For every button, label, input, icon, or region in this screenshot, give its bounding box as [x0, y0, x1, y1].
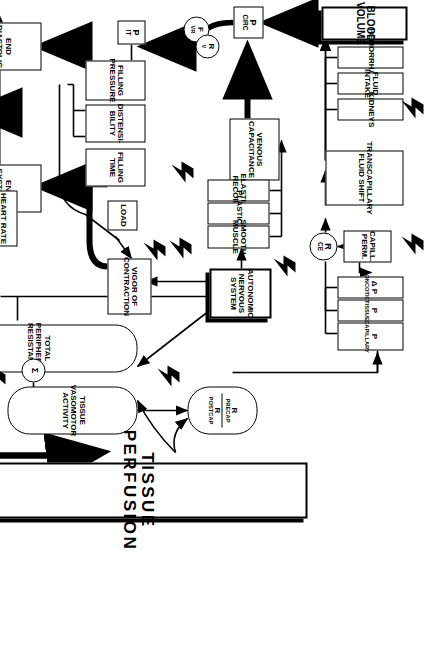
- lightning-bolt-capillary-permeability: [401, 233, 423, 254]
- lightning-bolt-vasomotor: [0, 367, 5, 388]
- lightning-bolt-vigor: [143, 239, 165, 260]
- lightning-bolt-kidneys: [401, 97, 423, 118]
- diagram-canvas: BLOOD VOLUME HEMORRHAGE FLUID INTAKE KID…: [0, 0, 437, 666]
- lightning-bolt-autonomic: [273, 255, 295, 276]
- lightning-bolt-precap-ratio: [157, 365, 179, 386]
- lightning-bolt-layer: [0, 0, 437, 666]
- lightning-bolt-elastic-recoil: [171, 161, 193, 182]
- diagram-rotated-layer: BLOOD VOLUME HEMORRHAGE FLUID INTAKE KID…: [0, 0, 437, 666]
- lightning-bolt-smooth-muscle: [169, 237, 191, 258]
